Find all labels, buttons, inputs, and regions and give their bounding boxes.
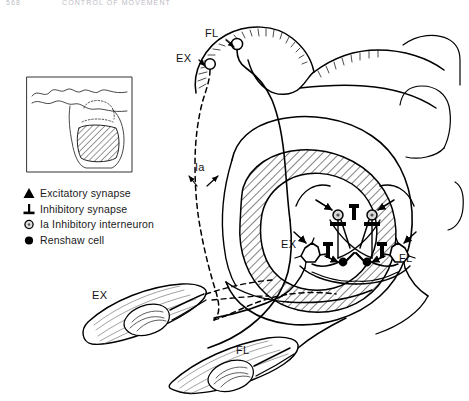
inhibitory-synapse-ex	[326, 244, 330, 258]
legend-item-excitatory-synapse: Excitatory synapse	[22, 186, 212, 202]
label-motoneuron-fl: FL	[399, 252, 412, 264]
filled-circle-icon	[22, 233, 38, 249]
open-circle-icon	[22, 217, 38, 233]
filled-triangle-icon	[22, 186, 38, 202]
label-muscle-ex: EX	[92, 289, 107, 301]
label-muscle-fl: FL	[236, 344, 249, 356]
legend-label-inhibitory-synapse: Inhibitory synapse	[40, 202, 127, 218]
legend-item-ia-interneuron: Ia Inhibitory interneuron	[22, 217, 212, 233]
legend-item-renshaw-cell: Renshaw cell	[22, 233, 212, 249]
legend-label-excitatory-synapse: Excitatory synapse	[40, 186, 131, 202]
spinal-cord-section	[212, 117, 412, 325]
orientation-inset	[27, 77, 132, 172]
excitatory-synapse-renshaw-left	[325, 256, 338, 262]
figure-legend: Excitatory synapse Inhibitory synapse Ia…	[22, 186, 212, 248]
motor-nerve-fl	[376, 296, 428, 334]
muscle-spindle-fl	[169, 337, 298, 394]
label-motoneuron-ex: EX	[281, 238, 296, 250]
label-cortex-fl: FL	[205, 27, 218, 39]
ia-afferent-pointer	[189, 176, 218, 186]
cerebral-cortex	[195, 27, 463, 230]
legend-item-inhibitory-synapse: Inhibitory synapse	[22, 202, 212, 218]
inhibitory-synapse-mid	[352, 206, 356, 220]
inhibitory-bar-icon	[22, 202, 38, 218]
label-afferent-ia: Ia	[195, 161, 205, 173]
label-cortex-ex: EX	[176, 52, 191, 64]
legend-label-ia-interneuron: Ia Inhibitory interneuron	[40, 217, 154, 233]
legend-label-renshaw-cell: Renshaw cell	[40, 233, 104, 249]
excitatory-synapse-to-interneuron-left	[316, 200, 332, 210]
inhibitory-synapse-fl	[380, 244, 384, 258]
